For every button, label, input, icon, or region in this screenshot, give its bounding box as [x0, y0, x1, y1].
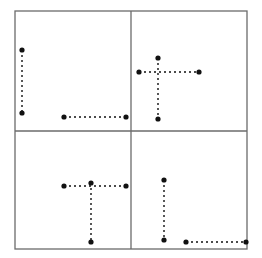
- tr-vertical-segment-endpoint-0: [155, 55, 160, 60]
- br-horizontal-segment-endpoint-1: [243, 239, 248, 244]
- tr-horizontal-segment-endpoint-1: [196, 69, 201, 74]
- bl-horizontal-segment-endpoint-0: [61, 183, 66, 188]
- br-vertical-segment-endpoint-0: [161, 177, 166, 182]
- tr-horizontal-segment-endpoint-0: [136, 69, 141, 74]
- tl-vertical-segment-endpoint-0: [19, 47, 24, 52]
- tr-vertical-segment-endpoint-1: [155, 116, 160, 121]
- bl-horizontal-segment-endpoint-1: [123, 183, 128, 188]
- tl-vertical-segment-endpoint-1: [19, 110, 24, 115]
- bl-vertical-segment-endpoint-0: [88, 180, 93, 185]
- br-horizontal-segment-endpoint-0: [183, 239, 188, 244]
- br-vertical-segment-endpoint-1: [161, 237, 166, 242]
- bl-vertical-segment-endpoint-1: [88, 239, 93, 244]
- quadrant-diagram: [0, 0, 262, 258]
- tl-horizontal-segment-endpoint-0: [61, 114, 66, 119]
- figure-container: [0, 0, 262, 258]
- tl-horizontal-segment-endpoint-1: [123, 114, 128, 119]
